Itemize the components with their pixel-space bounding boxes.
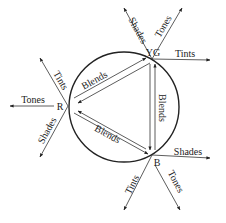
r-shades-label: Shades (35, 115, 58, 145)
node-yg: YG (146, 47, 160, 58)
r-tints-label: Tints (51, 69, 71, 92)
b-shades-label: Shades (174, 146, 202, 157)
yg-tints-label: Tints (175, 48, 195, 59)
yg-tones-label: Tones (152, 13, 174, 39)
yg-shades-label: Shades (126, 15, 149, 45)
node-b: B (154, 157, 161, 168)
color-blend-diagram: Blends Blends Blends Shades Tones Tints … (0, 0, 226, 223)
blend-arrows-yg-b (150, 64, 155, 150)
blend-label-yg-b: Blends (157, 94, 168, 122)
blend-label-r-b: Blends (93, 122, 123, 145)
b-tints-label: Tints (122, 173, 141, 196)
r-tones-label: Tones (21, 94, 45, 105)
node-r: R (57, 101, 64, 112)
